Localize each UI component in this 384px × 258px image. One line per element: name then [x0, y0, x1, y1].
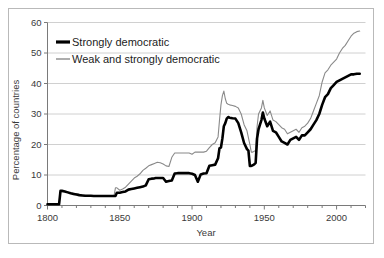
x-axis-title: Year	[196, 227, 215, 238]
y-axis-tick-labels: 0102030405060	[31, 17, 42, 211]
y-tick-label-50: 50	[31, 47, 42, 58]
y-tick-label-20: 20	[31, 139, 42, 150]
x-tick-label-1800: 1800	[37, 212, 58, 223]
y-tick-label-0: 0	[36, 200, 41, 211]
y-axis-ticks	[44, 23, 48, 206]
y-tick-label-10: 10	[31, 169, 42, 180]
y-tick-label-60: 60	[31, 17, 42, 28]
chart-figure: 0102030405060 18001850190019502000 Perce…	[0, 0, 384, 258]
y-tick-label-40: 40	[31, 78, 42, 89]
x-axis-tick-labels: 18001850190019502000	[37, 212, 347, 223]
x-tick-label-1900: 1900	[181, 212, 202, 223]
democracy-line-chart: 0102030405060 18001850190019502000 Perce…	[0, 0, 384, 258]
y-axis-title: Percentage of countries	[10, 80, 21, 181]
legend-label-0: Strongly democratic	[72, 36, 170, 48]
x-tick-label-1850: 1850	[109, 212, 130, 223]
y-tick-label-30: 30	[31, 108, 42, 119]
legend-label-1: Weak and strongly democratic	[72, 53, 220, 65]
x-tick-label-2000: 2000	[326, 212, 347, 223]
x-tick-label-1950: 1950	[254, 212, 275, 223]
x-axis-ticks	[48, 206, 366, 210]
